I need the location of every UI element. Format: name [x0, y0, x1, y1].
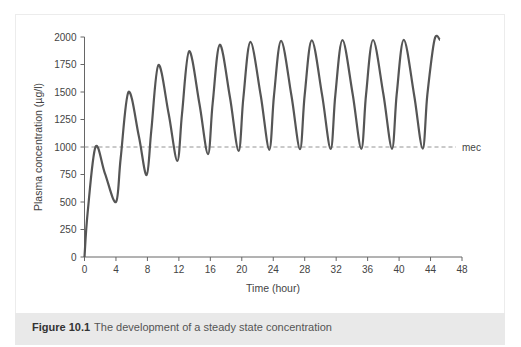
- y-tick-label: 1000: [54, 142, 77, 153]
- x-tick-label: 28: [299, 264, 311, 275]
- x-tick-label: 48: [456, 264, 468, 275]
- x-tick-label: 0: [82, 264, 88, 275]
- y-tick-label: 1500: [54, 87, 77, 98]
- x-tick-label: 20: [236, 264, 248, 275]
- line-chart: 025050075010001250150017502000 048121620…: [0, 0, 521, 347]
- y-tick-label: 500: [60, 197, 77, 208]
- y-tick-label: 0: [71, 252, 77, 263]
- y-tick-label: 750: [60, 169, 77, 180]
- x-tick-label: 12: [173, 264, 185, 275]
- caption-band: Figure 10.1The development of a steady s…: [15, 313, 505, 345]
- figure-caption: Figure 10.1The development of a steady s…: [32, 321, 332, 333]
- y-tick-label: 250: [60, 224, 77, 235]
- figure-caption-text: The development of a steady state concen…: [94, 321, 332, 333]
- y-tick-label: 2000: [54, 32, 77, 43]
- x-axis-title: Time (hour): [246, 282, 300, 294]
- y-axis-title: Plasma concentration (µg/l): [32, 83, 44, 211]
- x-axis: 04812162024283236404448: [82, 257, 468, 275]
- y-tick-label: 1250: [54, 114, 77, 125]
- y-tick-label: 1750: [54, 59, 77, 70]
- mec-label: mec: [462, 142, 481, 153]
- x-tick-label: 40: [394, 264, 406, 275]
- x-tick-label: 44: [425, 264, 437, 275]
- x-tick-label: 36: [362, 264, 374, 275]
- x-tick-label: 16: [205, 264, 217, 275]
- x-tick-label: 4: [113, 264, 119, 275]
- figure-number: Figure 10.1: [32, 321, 90, 333]
- x-tick-label: 8: [145, 264, 151, 275]
- concentration-curve: [85, 36, 441, 257]
- x-tick-label: 32: [331, 264, 343, 275]
- x-tick-label: 24: [268, 264, 280, 275]
- y-axis: 025050075010001250150017502000: [54, 32, 84, 263]
